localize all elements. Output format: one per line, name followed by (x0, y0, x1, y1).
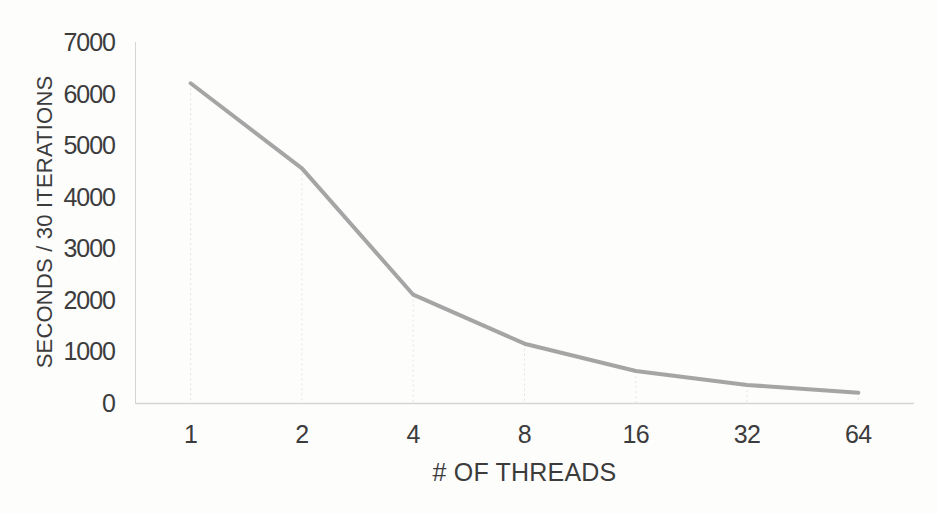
y-tick-label: 7000 (0, 29, 115, 55)
x-tick-label: 64 (802, 421, 914, 447)
x-tick-label: 2 (246, 421, 358, 447)
y-tick-label: 0 (0, 390, 115, 416)
scanned-line-chart-page: SECONDS / 30 ITERATIONS 0100020003000400… (0, 0, 937, 514)
y-tick-label: 6000 (0, 81, 115, 107)
x-tick-label: 16 (580, 421, 692, 447)
y-tick-label: 1000 (0, 338, 115, 364)
y-tick-label: 5000 (0, 132, 115, 158)
y-axis-title: SECONDS / 30 ITERATIONS (32, 76, 58, 369)
x-tick-label: 1 (135, 421, 247, 447)
series-line (191, 83, 859, 392)
y-tick-label: 2000 (0, 287, 115, 313)
x-tick-label: 32 (691, 421, 803, 447)
x-tick-label: 8 (469, 421, 581, 447)
x-axis-title: # OF THREADS (135, 458, 914, 487)
y-tick-label: 3000 (0, 235, 115, 261)
y-tick-label: 4000 (0, 184, 115, 210)
x-tick-label: 4 (357, 421, 469, 447)
